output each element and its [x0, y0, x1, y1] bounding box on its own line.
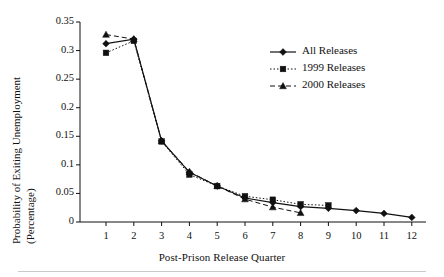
x-tick-label: 5	[203, 230, 231, 241]
legend-item-label: 2000 Releases	[302, 78, 365, 90]
x-tick-label: 4	[175, 230, 203, 241]
footer-rule	[18, 271, 426, 272]
x-tick-label: 9	[314, 230, 342, 241]
y-tick-label: 0.15	[36, 129, 74, 140]
y-axis-title-line1: Probability of Exiting Unemployment	[10, 77, 22, 244]
legend-item-label: All Releases	[302, 44, 357, 56]
y-tick-label: 0.1	[36, 158, 74, 169]
legend-item-label: 1999 Releases	[302, 61, 365, 73]
x-tick-label: 11	[370, 230, 398, 241]
figure-container: Probability of Exiting Unemployment (Per…	[0, 0, 444, 277]
x-tick-label: 2	[120, 230, 148, 241]
x-tick-label: 7	[259, 230, 287, 241]
chart-series	[103, 36, 416, 221]
x-tick-label: 6	[231, 230, 259, 241]
y-axis-title-line2: (Percentage)	[24, 188, 36, 244]
x-tick-label: 10	[342, 230, 370, 241]
x-tick-label: 8	[287, 230, 315, 241]
chart-series	[103, 31, 304, 215]
axis-lines	[80, 22, 426, 222]
y-tick-label: 0.05	[36, 186, 74, 197]
x-tick-label: 1	[92, 230, 120, 241]
y-tick-group	[76, 22, 80, 222]
x-tick-group	[106, 222, 412, 226]
x-tick-label: 12	[398, 230, 426, 241]
y-tick-label: 0.2	[36, 101, 74, 112]
x-tick-label: 3	[148, 230, 176, 241]
x-axis-title: Post-Prison Release Quarter	[0, 251, 444, 263]
legend	[270, 49, 296, 89]
y-axis-title: Probability of Exiting Unemployment (Per…	[0, 0, 56, 240]
y-tick-label: 0.25	[36, 72, 74, 83]
y-tick-label: 0.35	[36, 15, 74, 26]
y-tick-label: 0.3	[36, 44, 74, 55]
y-tick-label: 0	[36, 215, 74, 226]
